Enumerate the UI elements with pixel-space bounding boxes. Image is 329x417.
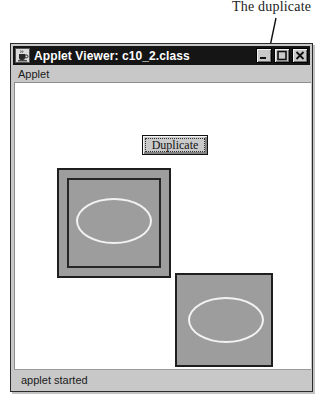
scan-artifact: [16, 0, 108, 1]
minimize-button[interactable]: [256, 48, 272, 63]
applet-viewer-window[interactable]: Applet Viewer: c10_2.class Applet Duplic…: [10, 43, 313, 392]
shape-duplicate-ellipse: [188, 297, 264, 343]
coffee-cup-icon: [15, 48, 30, 63]
status-text: applet started: [21, 374, 88, 386]
duplicate-button-focus-ring: Duplicate: [145, 138, 205, 152]
duplicate-button[interactable]: Duplicate: [142, 135, 208, 155]
duplicate-button-label: Duplicate: [152, 139, 199, 151]
title-bar[interactable]: Applet Viewer: c10_2.class: [13, 46, 310, 65]
shape-original-ellipse: [76, 198, 152, 244]
applet-canvas[interactable]: Duplicate: [14, 82, 311, 369]
window-title: Applet Viewer: c10_2.class: [34, 49, 254, 63]
menu-bar[interactable]: Applet: [13, 65, 310, 82]
shape-original[interactable]: [57, 168, 171, 278]
shape-duplicate[interactable]: [175, 273, 273, 367]
maximize-button[interactable]: [274, 48, 290, 63]
status-bar: applet started: [14, 369, 311, 390]
annotation-label: The duplicate: [232, 0, 311, 15]
close-button[interactable]: [292, 48, 308, 63]
menu-item-applet[interactable]: Applet: [18, 68, 49, 80]
